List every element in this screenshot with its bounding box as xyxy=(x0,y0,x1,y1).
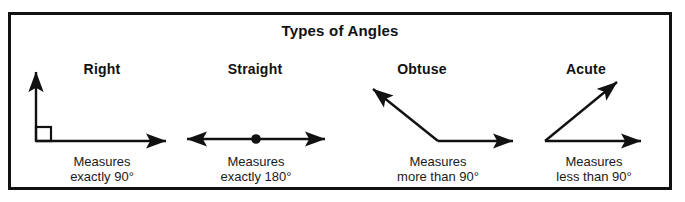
caption-acute: Measures less than 90° xyxy=(519,154,669,184)
caption-straight-line2: exactly 180° xyxy=(181,169,331,184)
right-angle-icon xyxy=(36,72,166,141)
straight-angle-icon xyxy=(187,134,325,144)
angles-chart-screenshot: ● Types of Angles Right Straight Obtuse … xyxy=(0,0,685,202)
caption-right-line1: Measures xyxy=(25,154,179,169)
caption-obtuse-line1: Measures xyxy=(361,154,515,169)
right-angle-square-marker xyxy=(36,127,51,141)
acute-angle-icon xyxy=(545,82,641,141)
caption-right-line2: exactly 90° xyxy=(25,169,179,184)
caption-obtuse: Measures more than 90° xyxy=(361,154,515,184)
caption-straight-line1: Measures xyxy=(181,154,331,169)
column-header-obtuse: Obtuse xyxy=(347,61,497,77)
caption-right: Measures exactly 90° xyxy=(25,154,179,184)
column-header-straight: Straight xyxy=(181,61,329,77)
obtuse-angle-icon xyxy=(373,89,513,141)
caption-acute-line2: less than 90° xyxy=(519,169,669,184)
caption-acute-line1: Measures xyxy=(519,154,669,169)
column-header-right: Right xyxy=(33,61,171,77)
page-title: Types of Angles xyxy=(11,22,669,39)
column-header-acute: Acute xyxy=(511,61,661,77)
caption-straight: Measures exactly 180° xyxy=(181,154,331,184)
straight-angle-vertex-dot xyxy=(251,134,261,144)
chart-frame: Types of Angles Right Straight Obtuse Ac… xyxy=(8,12,672,190)
clipped-top-glyph: ● xyxy=(0,0,685,4)
caption-obtuse-line2: more than 90° xyxy=(361,169,515,184)
